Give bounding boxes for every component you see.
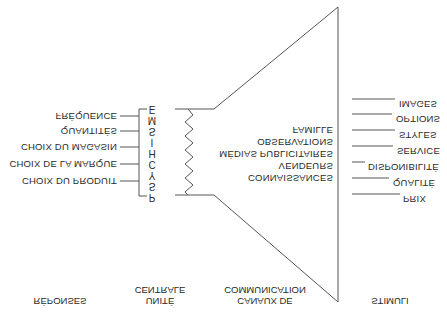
channel-observations: OBSERVATIONS <box>200 137 333 147</box>
response-frequence: FRÉQUENCE <box>0 111 117 121</box>
stimulus-styles: STYLES <box>399 130 437 140</box>
response-quantites: QUANTITÉS <box>0 126 117 136</box>
header-central-line1: UNITÉ <box>125 296 195 306</box>
header-responses: RÉPONSES <box>25 296 95 306</box>
zigzag-boundary <box>185 109 193 195</box>
stimulus-service: SERVICE <box>397 146 440 156</box>
response-choix-magasin: CHOIX DU MAGASIN <box>0 142 117 152</box>
central-letter: I <box>146 137 158 147</box>
central-letter: Y <box>146 170 158 180</box>
stimulus-disponibilite: DISPONIBILITÉ <box>368 162 439 172</box>
central-letter: S <box>146 181 158 191</box>
channel-connaissances: CONNAISSANCES <box>200 173 333 183</box>
funnel-top-edge <box>175 7 338 109</box>
central-letter: C <box>146 159 158 169</box>
central-letter: H <box>146 148 158 158</box>
central-letter: M <box>146 115 158 125</box>
stimulus-qualite: QUALITÉ <box>393 178 435 188</box>
stimulus-prix: PRIX <box>403 194 426 204</box>
consumer-behavior-diagram: IMAGES OPTIONS STYLES SERVICE DISPONIBIL… <box>0 0 447 319</box>
central-letter: S <box>146 126 158 136</box>
stimulus-images: IMAGES <box>399 99 437 109</box>
stimulus-options: OPTIONS <box>396 114 440 124</box>
header-channels-line2: COMMUNICATION <box>215 285 315 295</box>
channel-medias-publicitaires: MÉDIAS PUBLICITAIRES <box>200 149 333 159</box>
response-choix-produit: CHOIX DU PRODUIT <box>0 176 117 186</box>
central-letter: E <box>146 104 158 114</box>
response-choix-marque: CHOIX DE LA MARQUE <box>0 159 117 169</box>
central-letter: P <box>146 192 158 202</box>
header-channels-line1: CANAUX DE <box>215 296 315 306</box>
channel-vendeurs: VENDEURS <box>200 161 333 171</box>
channel-famille: FAMILLE <box>200 125 333 135</box>
header-stimuli: STIMULI <box>365 296 415 306</box>
header-central-line2: CENTRALE <box>125 285 195 295</box>
